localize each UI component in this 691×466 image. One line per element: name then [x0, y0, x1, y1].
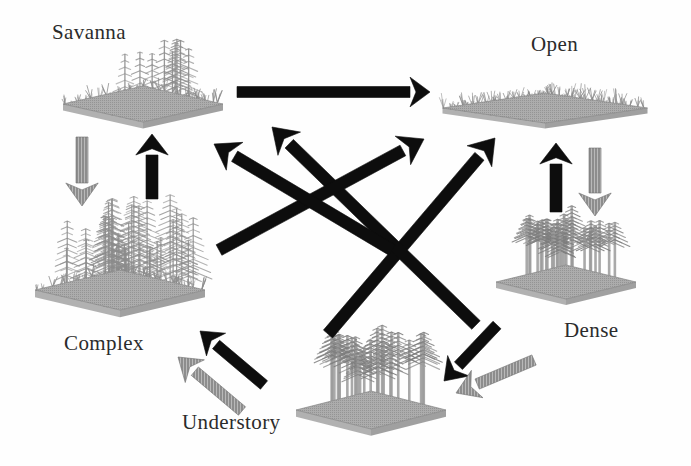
arrow-dense-to-savanna	[272, 127, 480, 329]
forest-patch-savanna	[62, 39, 223, 128]
forest-patch-understory	[296, 325, 446, 436]
forest-patch-open	[439, 83, 647, 129]
state-label-dense: Dense	[564, 318, 618, 343]
arrow-open-to-complex	[214, 142, 395, 255]
state-label-savanna: Savanna	[52, 20, 126, 45]
arrow-understory-to-dense	[444, 321, 501, 381]
arrow-open-to-dense	[579, 148, 611, 216]
forest-patch-dense	[496, 206, 636, 305]
state-label-open: Open	[531, 32, 578, 57]
state-label-complex: Complex	[64, 331, 144, 356]
arrow-savanna-to-complex	[66, 137, 98, 206]
arrow-dense-to-open	[540, 143, 572, 212]
arrow-complex-to-savanna	[136, 134, 168, 199]
arrow-dense-to-understory	[456, 355, 536, 398]
forest-patch-complex	[35, 195, 212, 317]
arrow-understory-to-open	[323, 138, 495, 338]
forest-transition-diagram	[0, 0, 691, 466]
arrow-complex-to-open	[216, 136, 424, 255]
state-label-understory: Understory	[182, 410, 280, 435]
forest-patch-group	[35, 39, 648, 436]
diagram-canvas: Savanna Open Complex Understory Dense	[0, 0, 691, 466]
arrow-understory-to-complex	[200, 331, 268, 389]
transition-arrow-group	[66, 77, 611, 415]
arrow-complex-to-understory	[178, 357, 246, 415]
arrow-savanna-to-open	[237, 77, 430, 107]
